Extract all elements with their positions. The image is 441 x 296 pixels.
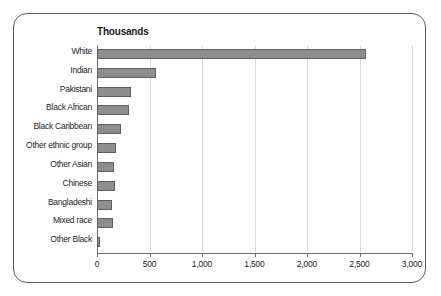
bar-row: Black Caribbean — [97, 120, 412, 139]
bar-row: Pakistani — [97, 83, 412, 102]
bar — [97, 124, 121, 134]
category-label: White — [72, 46, 92, 56]
chart-title: Thousands — [97, 26, 149, 37]
category-label: Other Black — [50, 234, 92, 244]
bar-row: White — [97, 45, 412, 64]
x-tick-label: 0 — [95, 259, 100, 269]
category-label: Black Caribbean — [33, 121, 92, 131]
plot-area: WhiteIndianPakistaniBlack AfricanBlack C… — [97, 45, 412, 252]
x-tick-mark — [360, 253, 361, 257]
x-tick-label: 2,500 — [349, 259, 369, 269]
bar-row: Chinese — [97, 177, 412, 196]
x-tick-label: 2,000 — [297, 259, 317, 269]
bar — [97, 181, 115, 191]
category-label: Pakistani — [60, 84, 92, 94]
bar-row: Indian — [97, 64, 412, 83]
chart-figure: Thousands WhiteIndianPakistaniBlack Afri… — [0, 0, 441, 296]
x-tick-mark — [150, 253, 151, 257]
bar-row: Other ethnic group — [97, 139, 412, 158]
gridline-3000 — [412, 45, 413, 252]
category-label: Mixed race — [53, 215, 92, 225]
bar-row: Other Asian — [97, 158, 412, 177]
x-tick-label: 500 — [143, 259, 157, 269]
bar — [97, 68, 156, 78]
x-tick-label: 3,000 — [402, 259, 422, 269]
category-label: Other Asian — [50, 159, 92, 169]
bar — [97, 143, 116, 153]
bar-row: Other Black — [97, 233, 412, 252]
category-label: Bangladeshi — [48, 197, 92, 207]
category-label: Other ethnic group — [26, 140, 92, 150]
x-tick-mark — [97, 253, 98, 257]
x-tick-label: 1,000 — [192, 259, 212, 269]
category-label: Black African — [46, 102, 92, 112]
bar-row: Bangladeshi — [97, 196, 412, 215]
category-label: Indian — [70, 65, 92, 75]
x-tick-mark — [255, 253, 256, 257]
bar-row: Mixed race — [97, 214, 412, 233]
x-tick-mark — [202, 253, 203, 257]
bar-row: Black African — [97, 101, 412, 120]
bar — [97, 87, 131, 97]
bar — [97, 200, 112, 210]
x-tick-mark — [307, 253, 308, 257]
bar — [97, 105, 129, 115]
bar — [97, 237, 100, 247]
bar — [97, 162, 114, 172]
category-label: Chinese — [63, 178, 92, 188]
bar — [97, 49, 366, 59]
bar — [97, 218, 113, 228]
x-tick-label: 1,500 — [244, 259, 264, 269]
x-tick-mark — [412, 253, 413, 257]
